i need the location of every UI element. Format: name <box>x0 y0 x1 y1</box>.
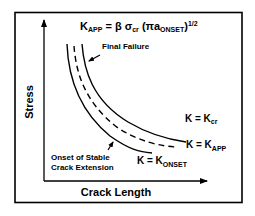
onset-arrow <box>108 142 113 150</box>
x-axis-label: Crack Length <box>81 186 152 198</box>
onset-label-line2: Crack Extension <box>51 163 114 172</box>
final-failure-arrow <box>89 55 100 61</box>
onset-label-line1: Onset of Stable <box>51 153 110 162</box>
figure-frame <box>15 13 242 203</box>
label-k-app: K = KAPP <box>186 139 227 152</box>
final-failure-label: Final Failure <box>102 42 150 51</box>
y-axis-label: Stress <box>23 85 35 119</box>
equation: KAPP = β σcr (πaONSET)1/2 <box>80 20 198 33</box>
label-k-onset: K = KONSET <box>137 155 188 168</box>
label-k-cr: K = Kcr <box>185 113 218 125</box>
curve-k-onset <box>67 44 152 153</box>
curve-k-cr <box>82 44 186 142</box>
stress-crack-length-diagram: KAPP = β σcr (πaONSET)1/2 Stress Crack L… <box>0 0 255 216</box>
